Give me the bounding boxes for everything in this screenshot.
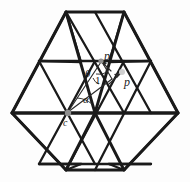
label-p-prime: p′	[104, 50, 113, 62]
midline-ul-a	[39, 61, 81, 62]
hexagon-outline	[12, 12, 178, 170]
midline-ur-a	[109, 61, 151, 62]
figure-root: p′ p θ 1 α c	[0, 0, 190, 182]
vertex-marker-c	[65, 110, 71, 116]
triangular-mesh-diagram	[0, 0, 190, 182]
label-c: c	[63, 118, 67, 128]
hexagon-border	[12, 12, 178, 170]
label-unit-length: 1	[95, 75, 101, 86]
label-theta: θ	[85, 68, 90, 79]
vertex-marker-p-prime	[98, 58, 103, 63]
label-p: p	[124, 76, 130, 88]
label-alpha: α	[83, 94, 89, 105]
